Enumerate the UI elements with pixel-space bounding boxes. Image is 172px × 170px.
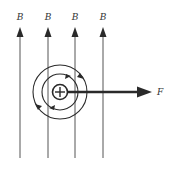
field-line-1: B: [16, 12, 24, 158]
field-line-4: B: [99, 12, 107, 158]
force-label: F: [156, 87, 164, 97]
arrow-icon: [77, 73, 84, 79]
conductor: [53, 85, 68, 100]
force-vector: F: [67, 87, 164, 98]
field-line-3: B: [71, 12, 79, 158]
diagram-canvas: B B B B: [0, 0, 172, 170]
arrow-up-icon: [100, 27, 107, 37]
arrow-up-icon: [17, 27, 24, 37]
field-label-2: B: [44, 12, 52, 22]
field-label-4: B: [99, 12, 107, 22]
arrow-icon: [35, 104, 42, 110]
field-label-3: B: [71, 12, 79, 22]
field-label-1: B: [16, 12, 24, 22]
arrow-up-icon: [45, 27, 52, 37]
arrow-up-icon: [72, 27, 79, 37]
field-line-2: B: [44, 12, 52, 158]
magnetic-force-diagram: B B B B: [0, 0, 172, 170]
arrow-right-icon: [137, 87, 152, 98]
